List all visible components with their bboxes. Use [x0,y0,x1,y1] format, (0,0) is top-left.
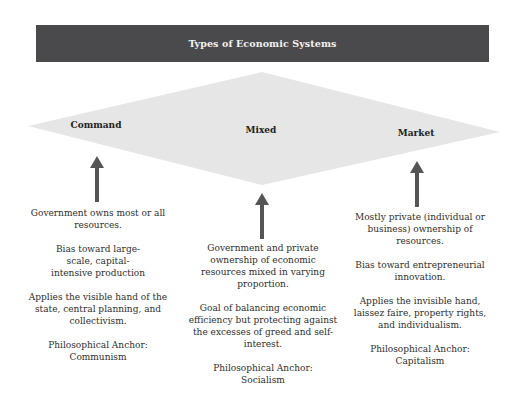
mixed-description-column: Government and private ownership of econ… [183,242,343,398]
mixed-arrow-icon [255,193,269,239]
market-label: Market [398,128,435,138]
command-label: Command [71,120,122,130]
command-arrow-icon [90,156,104,202]
mixed-anchor-text: Philosophical Anchor: Socialism [183,362,343,386]
mixed-goal-text: Goal of balancing economic efficiency bu… [183,302,343,350]
market-bias-text: Bias toward entrepreneurial innovation. [345,259,495,283]
mixed-label: Mixed [246,125,277,135]
command-hand-text: Applies the visible hand of the state, c… [18,291,178,327]
command-anchor-text: Philosophical Anchor: Communism [18,339,178,363]
command-bias-text: Bias toward large-scale, capital-intensi… [18,243,178,279]
market-arrow-icon [410,161,424,207]
command-description-column: Government owns most or all resources. B… [18,207,178,375]
market-description-column: Mostly private (individual or business) … [345,211,495,379]
market-anchor-text: Philosophical Anchor: Capitalism [345,343,495,367]
command-ownership-text: Government owns most or all resources. [18,207,178,231]
market-ownership-text: Mostly private (individual or business) … [345,211,495,247]
mixed-ownership-text: Government and private ownership of econ… [183,242,343,290]
market-hand-text: Applies the invisible hand, laissez fair… [345,295,495,331]
